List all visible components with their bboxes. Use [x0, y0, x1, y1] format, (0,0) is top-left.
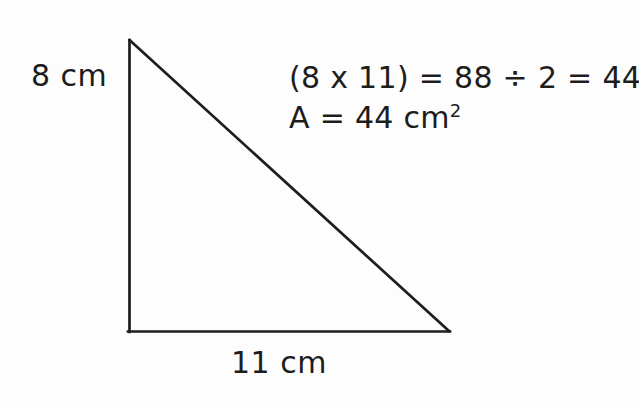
answer-text: A = 44 cm — [289, 100, 450, 135]
height-dimension-label: 8 cm — [31, 61, 107, 91]
base-dimension-label: 11 cm — [231, 348, 327, 378]
solution-line-calculation: (8 x 11) = 88 ÷ 2 = 44 — [289, 58, 639, 98]
solution-line-answer: A = 44 cm2 — [289, 98, 639, 138]
worksheet-canvas: 8 cm 11 cm (8 x 11) = 88 ÷ 2 = 44 A = 44… — [0, 0, 639, 409]
solution-text-block: (8 x 11) = 88 ÷ 2 = 44 A = 44 cm2 — [289, 58, 639, 138]
squared-exponent: 2 — [450, 100, 461, 121]
